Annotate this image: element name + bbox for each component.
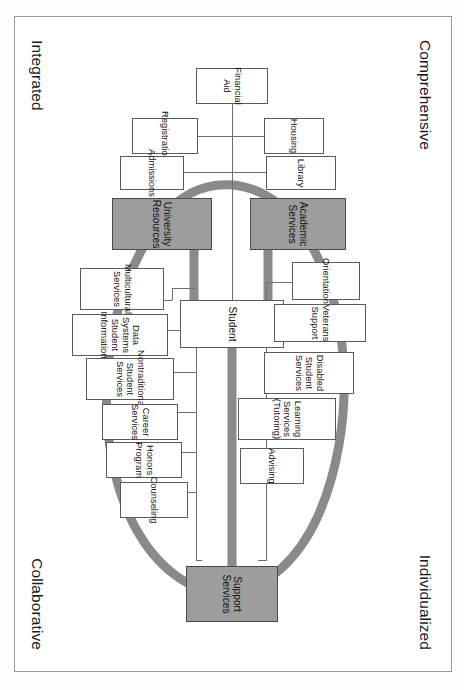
node-library[interactable]: Library	[266, 156, 336, 190]
node-label: Admissions	[147, 149, 158, 197]
node-disabled-student-services[interactable]: Disabled StudentServices	[264, 352, 354, 394]
node-label: Disabled StudentServices	[293, 355, 325, 391]
node-student[interactable]: Student	[180, 300, 284, 348]
node-label: Student	[226, 306, 237, 341]
node-label: Veterans Support	[309, 305, 330, 342]
node-label: Financial Aid	[221, 67, 242, 105]
node-learning-services[interactable]: Learning Services(Tutoring)	[238, 398, 336, 440]
node-label: Orientation	[321, 258, 332, 304]
node-label: Registration	[160, 111, 171, 161]
diagram-canvas: Comprehensive Individualized Integrated …	[0, 0, 464, 690]
node-support-services[interactable]: SupportServices	[186, 566, 278, 622]
node-counseling[interactable]: Counseling	[120, 482, 188, 518]
node-registration[interactable]: Registration	[132, 118, 198, 154]
node-orientation[interactable]: Orientation	[292, 262, 360, 300]
node-label: Counseling	[149, 477, 160, 524]
corner-label-individualized: Individualized	[416, 555, 434, 650]
node-honors-program[interactable]: Honors Program	[106, 442, 182, 478]
node-nontraditional-student-services[interactable]: NontraditionalStudent Services	[86, 358, 174, 400]
node-label: Honors Program	[133, 442, 154, 478]
node-admissions[interactable]: Admissions	[120, 156, 184, 190]
corner-label-integrated: Integrated	[28, 40, 46, 111]
node-academic-services[interactable]: AcademicServices	[250, 198, 346, 250]
rotated-diagram-group: Comprehensive Individualized Integrated …	[0, 0, 464, 690]
node-label: AcademicServices	[287, 202, 310, 247]
node-advising[interactable]: Advising	[240, 448, 304, 484]
node-label: UniversityResources	[151, 200, 174, 249]
node-label: Career Services	[129, 404, 150, 440]
node-financial-aid[interactable]: Financial Aid	[196, 68, 268, 104]
node-label: SupportServices	[221, 574, 244, 613]
node-career-services[interactable]: Career Services	[102, 404, 178, 440]
node-label: MulticulturalServices	[111, 264, 132, 314]
node-label: Advising	[267, 448, 278, 483]
node-university-resources[interactable]: UniversityResources	[112, 198, 212, 250]
node-veterans-support[interactable]: Veterans Support	[274, 304, 366, 342]
node-multicultural-services[interactable]: MulticulturalServices	[80, 268, 164, 310]
corner-label-collaborative: Collaborative	[28, 558, 46, 650]
node-label: Library	[296, 159, 307, 188]
node-label: Learning Services(Tutoring)	[271, 399, 303, 439]
node-housing[interactable]: Housing	[264, 118, 324, 154]
bus-bottom	[196, 348, 202, 560]
node-label: NontraditionalStudent Services	[114, 350, 146, 408]
node-label: Housing	[289, 119, 300, 153]
corner-label-comprehensive: Comprehensive	[416, 40, 434, 150]
